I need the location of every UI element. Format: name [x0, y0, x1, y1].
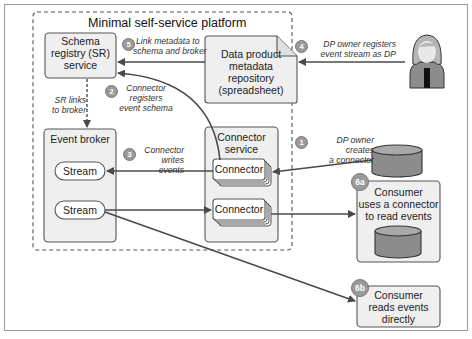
platform-title: Minimal self-service platform [88, 16, 246, 30]
annotation-step4: DP owner registers event stream as DP [310, 40, 396, 60]
schema-registry-label: Schema registry (SR) service [45, 35, 116, 71]
connector-2-label: Connector [213, 203, 265, 215]
event-broker-label: Event broker [44, 133, 116, 145]
badge-step1: 1 [295, 136, 308, 149]
badge-6a: 6a [351, 173, 369, 191]
badge-6b: 6b [351, 279, 369, 297]
stream-1-label: Stream [55, 165, 105, 177]
consumer-6a-label: Consumer uses a connector to read events [357, 186, 440, 222]
annotation-step1: DP owner creates a connector [309, 136, 374, 166]
dp-owner-person-icon [410, 35, 444, 88]
annotation-sr-links: SR links to broker [48, 96, 86, 116]
consumer-6b-label: Consumer reads events directly [357, 289, 440, 325]
annotation-step2: Connector registers event schema [114, 84, 178, 114]
connector-service-label: Connector service [205, 131, 278, 155]
event-broker-box [44, 129, 116, 242]
annotation-step3: Connector writes events [134, 146, 184, 176]
badge-step4: 4 [295, 40, 308, 53]
stream-2-label: Stream [55, 204, 105, 216]
annotation-step5: Link metadata to schema and broker [136, 37, 207, 57]
consumer-database-icon [375, 226, 421, 258]
source-database-icon [372, 145, 422, 177]
connector-1-label: Connector [213, 163, 265, 175]
data-product-repository-label: Data product metadata repository (spread… [205, 48, 297, 96]
